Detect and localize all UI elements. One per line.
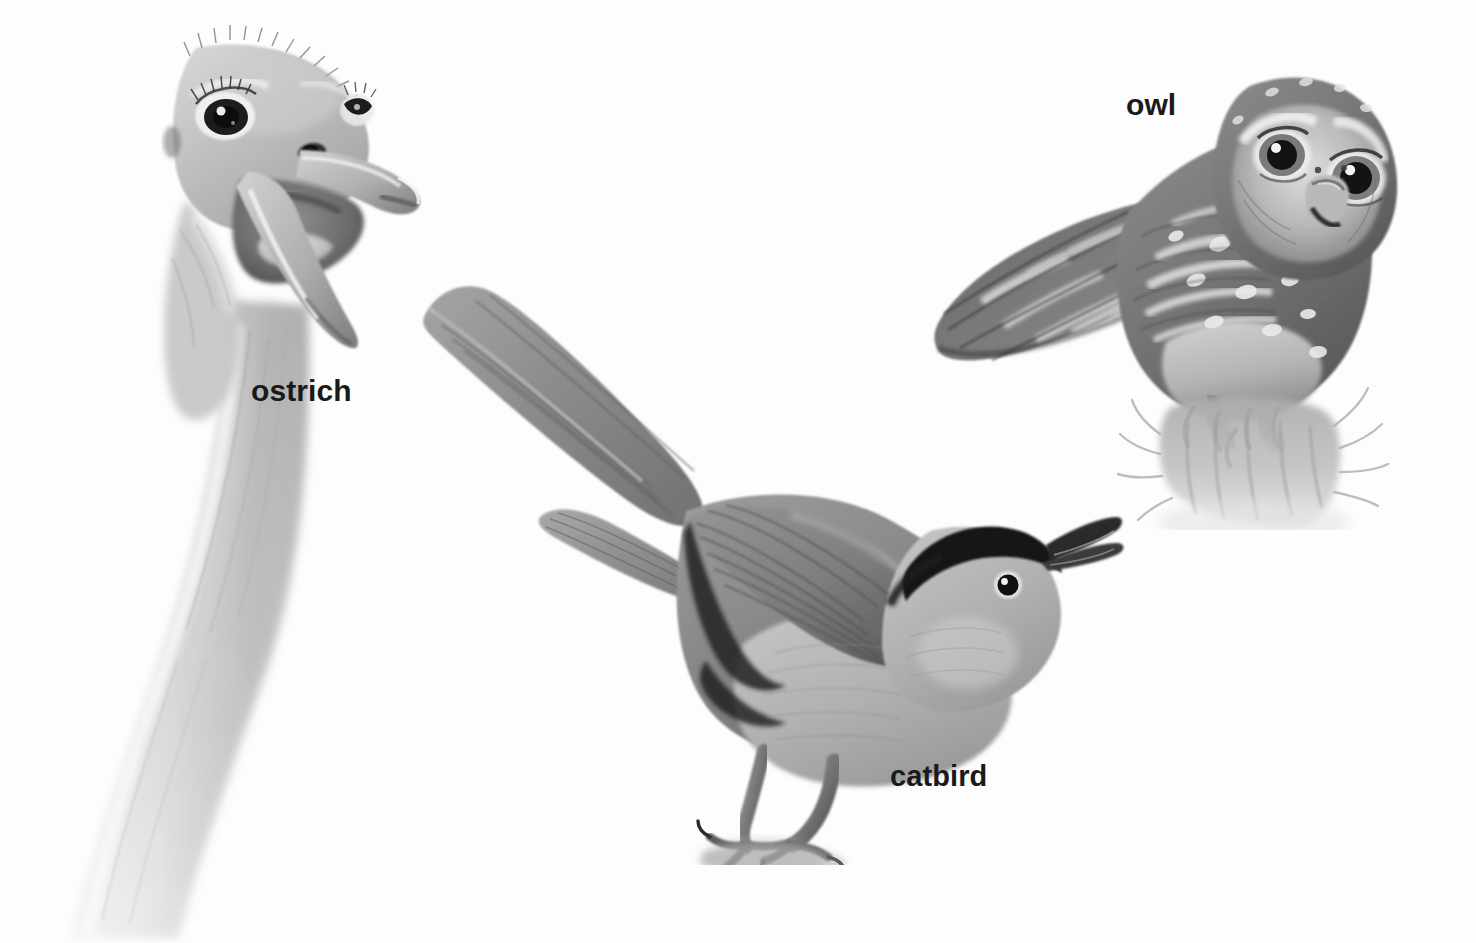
catbird-tail xyxy=(423,286,718,603)
catbird-head xyxy=(882,526,1062,712)
owl-head xyxy=(1213,77,1398,280)
label-ostrich: ostrich xyxy=(251,374,352,408)
catbird-eye xyxy=(994,571,1022,599)
illustration-plate: ostrich catbird owl xyxy=(0,0,1476,943)
label-catbird: catbird xyxy=(890,760,987,793)
ostrich-eye-right xyxy=(340,82,376,126)
label-owl: owl xyxy=(1126,88,1176,122)
owl-perch xyxy=(1118,388,1388,530)
